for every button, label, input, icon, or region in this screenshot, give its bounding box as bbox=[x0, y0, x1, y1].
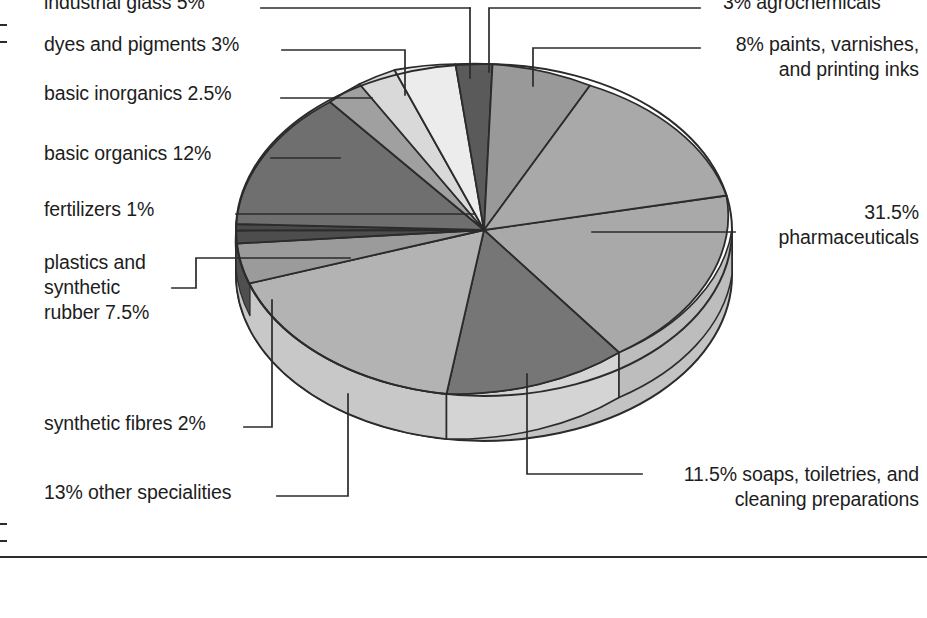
page-edge-mark-top-left bbox=[0, 24, 7, 26]
label-other-specialities: 13% other specialities bbox=[44, 480, 232, 505]
label-plastics-line-3: rubber 7.5% bbox=[44, 300, 149, 325]
label-paints-line-2: and printing inks bbox=[559, 57, 919, 82]
label-pharmaceuticals: 31.5% pharmaceuticals bbox=[599, 200, 919, 250]
label-pharmaceuticals-line-2: pharmaceuticals bbox=[599, 225, 919, 250]
chart-canvas: industrial glass 5% dyes and pigments 3%… bbox=[0, 0, 927, 618]
label-plastics-line-1: plastics and bbox=[44, 250, 149, 275]
page-bottom-rule bbox=[0, 556, 927, 558]
label-dyes-and-pigments: dyes and pigments 3% bbox=[44, 32, 239, 57]
label-soaps: 11.5% soaps, toiletries, and cleaning pr… bbox=[519, 462, 919, 512]
label-soaps-line-1: 11.5% soaps, toiletries, and bbox=[519, 462, 919, 487]
page-edge-mark-bottom-left bbox=[0, 523, 7, 525]
page-edge-mark-bottom-left-2 bbox=[0, 540, 7, 542]
label-agrochemicals: 3% agrochemicals bbox=[723, 0, 881, 15]
label-soaps-line-2: cleaning preparations bbox=[519, 487, 919, 512]
label-pharmaceuticals-line-1: 31.5% bbox=[599, 200, 919, 225]
label-basic-organics: basic organics 12% bbox=[44, 141, 211, 166]
label-paints-line-1: 8% paints, varnishes, bbox=[559, 32, 919, 57]
page-edge-mark-top-left-2 bbox=[0, 41, 7, 43]
label-fertilizers: fertilizers 1% bbox=[44, 197, 154, 222]
label-synthetic-fibres: synthetic fibres 2% bbox=[44, 411, 206, 436]
label-plastics-line-2: synthetic bbox=[44, 275, 149, 300]
label-paints: 8% paints, varnishes, and printing inks bbox=[559, 32, 919, 82]
label-basic-inorganics: basic inorganics 2.5% bbox=[44, 81, 232, 106]
label-plastics: plastics and synthetic rubber 7.5% bbox=[44, 250, 149, 325]
label-industrial-glass: industrial glass 5% bbox=[44, 0, 205, 15]
